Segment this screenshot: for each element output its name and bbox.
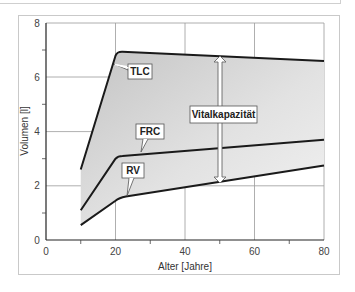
y-tick-2: 2 <box>34 180 40 191</box>
y-tick-6: 6 <box>34 72 40 83</box>
x-tick-80: 80 <box>318 246 330 257</box>
x-axis-label: Alter [Jahre] <box>158 261 212 272</box>
vc-label: Vitalkapazität <box>192 109 256 120</box>
y-tick-8: 8 <box>34 18 40 29</box>
x-tick-20: 20 <box>110 246 122 257</box>
x-tick-0: 0 <box>43 246 49 257</box>
y-tick-0: 0 <box>34 235 40 246</box>
x-tick-40: 40 <box>179 246 191 257</box>
x-tick-60: 60 <box>249 246 261 257</box>
x-tick-labels: 0 20 40 60 80 <box>43 246 330 257</box>
y-tick-4: 4 <box>34 126 40 137</box>
tlc-label: TLC <box>130 66 149 77</box>
frc-label: FRC <box>140 126 161 137</box>
lung-volume-chart: TLC FRC RV Vitalkapazität 0 2 4 6 8 0 20… <box>0 0 355 292</box>
rv-label: RV <box>126 165 140 176</box>
y-tick-labels: 0 2 4 6 8 <box>34 18 40 246</box>
y-axis-label: Volumen [l] <box>19 106 30 156</box>
